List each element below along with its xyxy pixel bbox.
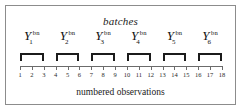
axis-tick xyxy=(139,66,140,70)
batch-label-subscript: 5 xyxy=(172,38,176,46)
axis-tick xyxy=(103,66,104,70)
axis-line xyxy=(20,66,222,67)
batch-label: Y6bn xyxy=(193,28,227,46)
batch-bracket-row xyxy=(6,53,235,62)
axis-caption: numbered observations xyxy=(6,87,235,97)
batch-label-subscript: 3 xyxy=(101,38,105,46)
batch-label-superscript: bn xyxy=(33,29,40,36)
axis-tick xyxy=(44,66,45,70)
axis-tick xyxy=(210,66,211,70)
batch-bracket xyxy=(91,53,115,61)
axis-tick xyxy=(56,66,57,70)
axis-tick xyxy=(115,66,116,70)
batch-label: Y1bn xyxy=(15,28,49,46)
axis-tick xyxy=(163,66,164,70)
axis-tick xyxy=(186,66,187,70)
batch-bracket xyxy=(198,53,222,61)
batch-label-superscript: bn xyxy=(211,29,218,36)
axis-tick xyxy=(174,66,175,70)
axis-tick xyxy=(151,66,152,70)
batch-bracket xyxy=(127,53,151,61)
axis-tick xyxy=(32,66,33,70)
batch-bracket xyxy=(163,53,187,61)
batch-label-superscript: bn xyxy=(140,29,147,36)
axis-tick xyxy=(20,66,21,70)
batch-label-row: Y1bnY2bnY3bnY4bnY5bnY6bn xyxy=(16,28,225,50)
axis-tick xyxy=(127,66,128,70)
axis-tick xyxy=(198,66,199,70)
axis-tick xyxy=(91,66,92,70)
batch-bracket xyxy=(20,53,44,61)
axis-tick xyxy=(68,66,69,70)
axis-tick xyxy=(222,66,223,70)
batch-label-subscript: 4 xyxy=(136,38,140,46)
batch-label-subscript: 2 xyxy=(65,38,69,46)
figure-title: batches xyxy=(6,15,235,27)
batch-label-superscript: bn xyxy=(175,29,182,36)
axis-tick xyxy=(79,66,80,70)
batch-label-superscript: bn xyxy=(68,29,75,36)
observation-axis: 123456789101112131415161718 xyxy=(6,66,235,88)
batch-label: Y3bn xyxy=(86,28,120,46)
batch-label-superscript: bn xyxy=(104,29,111,36)
batch-bracket xyxy=(56,53,80,61)
batch-label-subscript: 6 xyxy=(208,38,212,46)
batch-label: Y2bn xyxy=(51,28,85,46)
batch-label: Y4bn xyxy=(122,28,156,46)
batch-label-subscript: 1 xyxy=(29,38,33,46)
batch-label: Y5bn xyxy=(157,28,191,46)
axis-tick-label: 18 xyxy=(215,71,229,78)
figure-panel: batches Y1bnY2bnY3bnY4bnY5bnY6bn 1234567… xyxy=(5,5,236,105)
